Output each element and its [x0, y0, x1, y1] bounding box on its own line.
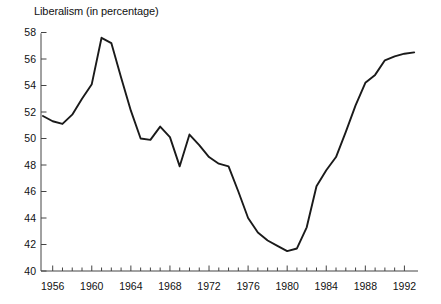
- x-tick-label: 1964: [119, 280, 143, 292]
- x-tick-label: 1976: [236, 280, 260, 292]
- y-tick-labels: 40424446485052545658: [24, 26, 36, 277]
- x-tick-labels: 1956196019641968197219761980198419881992: [41, 280, 416, 292]
- x-tick-label: 1956: [41, 280, 65, 292]
- y-tick-label: 48: [24, 159, 36, 171]
- x-tick-label: 1988: [354, 280, 378, 292]
- x-tick-label: 1968: [158, 280, 182, 292]
- y-tick-label: 52: [24, 106, 36, 118]
- y-tick-label: 42: [24, 238, 36, 250]
- y-tick-label: 44: [24, 212, 36, 224]
- x-tick-marks: [53, 266, 405, 272]
- x-tick-label: 1980: [276, 280, 300, 292]
- x-tick-label: 1960: [80, 280, 104, 292]
- line-chart-plot: 40424446485052545658 1956196019641968197…: [0, 0, 441, 304]
- y-tick-label: 46: [24, 185, 36, 197]
- y-tick-label: 56: [24, 53, 36, 65]
- chart-figure: Liberalism (in percentage) 4042444648505…: [0, 0, 441, 304]
- y-tick-label: 58: [24, 26, 36, 38]
- x-tick-label: 1992: [393, 280, 417, 292]
- y-tick-label: 40: [24, 265, 36, 277]
- y-tick-label: 50: [24, 132, 36, 144]
- y-tick-label: 54: [24, 79, 36, 91]
- x-tick-label: 1972: [197, 280, 221, 292]
- y-tick-marks: [41, 33, 47, 272]
- x-tick-label: 1984: [315, 280, 339, 292]
- liberalism-data-line: [43, 38, 414, 251]
